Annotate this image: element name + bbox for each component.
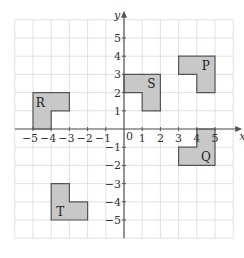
x-tick-label: 5 <box>212 132 219 145</box>
x-tick-label: −3 <box>58 132 74 145</box>
shape-label: Q <box>201 150 211 164</box>
x-tick-label: −2 <box>76 132 92 145</box>
y-axis-label: y <box>113 9 121 22</box>
y-tick-label: −3 <box>105 178 121 191</box>
shape-label: S <box>147 77 155 91</box>
y-tick-label: −1 <box>105 141 121 154</box>
x-axis-label: x <box>239 130 244 143</box>
y-tick-label: 4 <box>114 50 121 63</box>
x-tick-label: −4 <box>40 132 56 145</box>
y-tick-label: 1 <box>114 105 121 118</box>
y-tick-label: 2 <box>114 87 121 100</box>
x-tick-label: 2 <box>157 132 164 145</box>
shape-label: R <box>36 96 46 110</box>
x-tick-label: 1 <box>139 132 146 145</box>
x-tick-label: 4 <box>193 132 200 145</box>
y-tick-label: −2 <box>105 159 121 172</box>
y-tick-label: −5 <box>105 214 121 227</box>
origin-label: 0 <box>126 130 133 143</box>
y-tick-label: 5 <box>114 32 121 45</box>
x-tick-label: 3 <box>175 132 182 145</box>
y-arrow-icon <box>121 11 127 18</box>
y-tick-label: −4 <box>105 196 121 209</box>
y-tick-label: 3 <box>114 68 121 81</box>
shape-label: P <box>202 59 210 73</box>
x-tick-label: −5 <box>22 132 38 145</box>
coordinate-grid: RSPQT xy −5−4−3−2−112345−5−4−3−2−1123450 <box>0 0 244 258</box>
shape-label: T <box>56 205 64 219</box>
